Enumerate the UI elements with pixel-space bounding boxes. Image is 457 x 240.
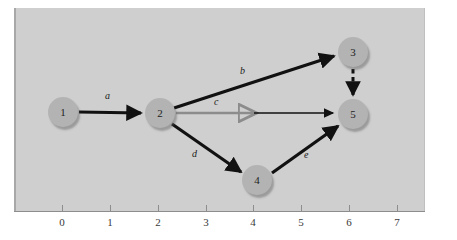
node-4-label: 4 (254, 174, 260, 186)
x-axis-tick-6 (349, 205, 350, 212)
x-axis-label-0: 0 (52, 216, 72, 228)
node-1-label: 1 (60, 106, 66, 118)
x-axis-tick-1 (110, 205, 111, 212)
edge-label-c: c (214, 96, 218, 107)
x-axis-tick-0 (62, 205, 63, 212)
x-axis-line (14, 211, 425, 212)
node-2-label: 2 (157, 107, 163, 119)
node-3[interactable]: 3 (338, 37, 368, 67)
node-5-label: 5 (350, 108, 356, 120)
edge-label-a: a (105, 90, 110, 101)
x-axis-tick-3 (206, 205, 207, 212)
node-3-label: 3 (350, 46, 356, 58)
figure-container: 1 2 3 4 5 a b c d e 0 1 2 3 4 5 6 7 (0, 0, 457, 240)
x-axis-tick-2 (158, 205, 159, 212)
x-axis-label-7: 7 (387, 216, 407, 228)
node-4[interactable]: 4 (242, 165, 272, 195)
node-2[interactable]: 2 (145, 98, 175, 128)
x-axis-label-2: 2 (148, 216, 168, 228)
edge-label-d: d (192, 148, 197, 159)
edge-label-b: b (240, 65, 245, 76)
x-axis-label-3: 3 (196, 216, 216, 228)
node-1[interactable]: 1 (48, 97, 78, 127)
x-axis-label-4: 4 (243, 216, 263, 228)
x-axis-tick-5 (301, 205, 302, 212)
x-axis-label-6: 6 (339, 216, 359, 228)
x-axis-label-5: 5 (291, 216, 311, 228)
x-axis-tick-7 (397, 205, 398, 212)
edge-label-e: e (304, 149, 308, 160)
x-axis-tick-4 (253, 205, 254, 212)
node-5[interactable]: 5 (338, 99, 368, 129)
x-axis-label-1: 1 (100, 216, 120, 228)
